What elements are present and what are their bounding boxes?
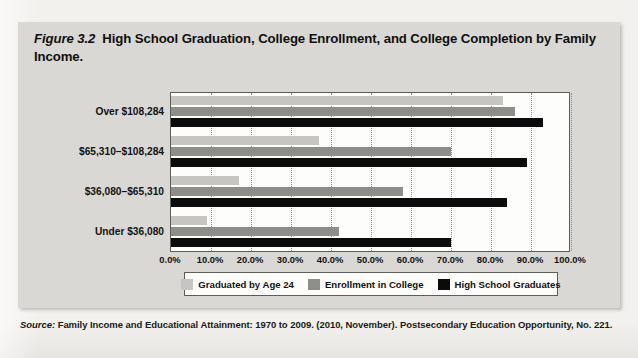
x-axis-tick: 60.0% <box>397 254 424 265</box>
bar-group <box>171 133 569 173</box>
figure-number: Figure 3.2 <box>34 31 95 46</box>
bar-enrollment-in-college <box>171 147 451 156</box>
source-label: Source: <box>20 319 55 330</box>
x-axis-tick: 80.0% <box>477 254 504 265</box>
x-axis-tick: 90.0% <box>517 254 544 265</box>
x-axis-tick: 40.0% <box>317 254 344 265</box>
chart-gridline <box>571 93 573 251</box>
x-axis-tick: 30.0% <box>277 254 304 265</box>
bar-group <box>171 93 569 133</box>
bar-high-school-graduates <box>171 238 451 247</box>
bar-graduated-by-age-24 <box>171 176 239 185</box>
x-axis-tick: 20.0% <box>237 254 264 265</box>
bar-enrollment-in-college <box>171 187 403 196</box>
legend-label: High School Graduates <box>455 279 561 290</box>
x-axis-tick-labels: 0.0%10.0%20.0%30.0%40.0%50.0%60.0%70.0%8… <box>170 254 570 268</box>
source-note: Source: Family Income and Educational At… <box>20 318 620 332</box>
bar-graduated-by-age-24 <box>171 136 319 145</box>
bar-high-school-graduates <box>171 118 543 127</box>
y-axis-label: $65,310–$108,284 <box>22 146 164 157</box>
bar-enrollment-in-college <box>171 227 339 236</box>
x-axis-tick: 0.0% <box>159 254 180 265</box>
figure-caption: Figure 3.2High School Graduation, Colleg… <box>34 30 598 65</box>
bar-graduated-by-age-24 <box>171 216 207 225</box>
y-axis-label: Over $108,284 <box>22 106 164 117</box>
scanned-page: Figure 3.2High School Graduation, Colleg… <box>0 0 638 358</box>
x-axis-tick: 50.0% <box>357 254 384 265</box>
bar-graduated-by-age-24 <box>171 96 503 105</box>
bar-high-school-graduates <box>171 198 507 207</box>
figure-panel: Figure 3.2High School Graduation, Colleg… <box>18 22 620 308</box>
x-axis-tick: 10.0% <box>197 254 224 265</box>
legend-label: Graduated by Age 24 <box>198 279 294 290</box>
x-axis-tick: 70.0% <box>437 254 464 265</box>
legend-item: High School Graduates <box>438 279 561 290</box>
x-axis-tick: 100.0% <box>554 254 586 265</box>
bar-group <box>171 213 569 253</box>
chart-legend: Graduated by Age 24Enrollment in College… <box>184 272 558 296</box>
bar-enrollment-in-college <box>171 107 515 116</box>
figure-caption-text: High School Graduation, College Enrollme… <box>34 31 596 64</box>
y-axis-label: Under $36,080 <box>22 226 164 237</box>
legend-label: Enrollment in College <box>325 279 424 290</box>
legend-swatch-icon <box>308 279 320 290</box>
legend-item: Graduated by Age 24 <box>181 279 294 290</box>
bar-group <box>171 173 569 213</box>
bar-high-school-graduates <box>171 158 527 167</box>
y-axis-category-labels: Over $108,284$65,310–$108,284$36,080–$65… <box>18 92 164 252</box>
y-axis-label: $36,080–$65,310 <box>22 186 164 197</box>
legend-item: Enrollment in College <box>308 279 424 290</box>
legend-swatch-icon <box>181 279 193 290</box>
legend-swatch-icon <box>438 279 450 290</box>
source-text: Family Income and Educational Attainment… <box>58 319 613 330</box>
chart-plot-area <box>170 92 570 252</box>
